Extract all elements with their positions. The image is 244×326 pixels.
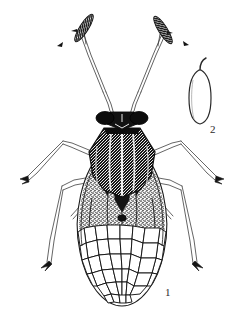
figure-2-label: 2 bbox=[210, 123, 216, 135]
left-compound-eye bbox=[96, 112, 114, 125]
central-tubercle bbox=[118, 214, 127, 221]
right-compound-eye bbox=[130, 112, 148, 125]
egg-body bbox=[189, 70, 211, 124]
plate-canvas: 1 2 bbox=[0, 0, 244, 326]
illustration-plate: 1 2 bbox=[0, 0, 244, 326]
figure-1-label: 1 bbox=[165, 286, 171, 298]
